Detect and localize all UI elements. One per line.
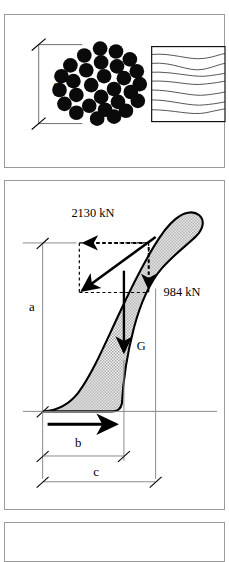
force-label-horizontal: 2130 kN [71, 206, 114, 220]
dimension-c-label: c [93, 465, 99, 479]
dimension-a [37, 238, 49, 417]
cable-drawing: d [5, 15, 224, 167]
panel-cable-cross-section: d [4, 14, 225, 168]
cable-strand-cluster [52, 41, 147, 126]
dimension-a-label: a [29, 300, 35, 314]
cable-longitudinal-view [152, 47, 225, 122]
dimension-b-label: b [75, 436, 81, 450]
dimension-c [37, 477, 162, 488]
panel-force-diagram: a [4, 180, 225, 510]
dimension-b-ticks [37, 411, 130, 478]
panel-next-partial [4, 522, 225, 562]
force-diagram-drawing: a [5, 181, 224, 509]
force-label-vertical: 984 kN [164, 285, 201, 299]
weight-label-G: G [137, 339, 146, 353]
